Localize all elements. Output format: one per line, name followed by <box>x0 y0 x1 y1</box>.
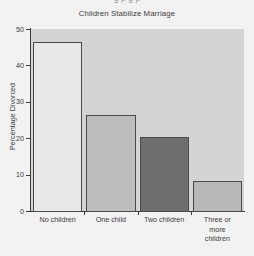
y-axis-line <box>30 28 31 212</box>
bar-2[interactable] <box>140 137 189 212</box>
y-tick-50 <box>26 29 31 30</box>
x-axis-label-line: children <box>191 234 244 244</box>
x-axis-label-2: Two children <box>138 215 191 225</box>
y-tick-label-10: 10 <box>2 171 24 178</box>
y-tick-label-0: 0 <box>2 208 24 215</box>
x-axis-label-line: Three or <box>191 215 244 225</box>
y-tick-label-50: 50 <box>2 26 24 33</box>
x-axis-label-3: Three ormorechildren <box>191 215 244 244</box>
y-tick-40 <box>26 65 31 66</box>
bar-3[interactable] <box>193 181 242 212</box>
bar-chart-figure: g p g p Children Stabilize Marriage 0102… <box>0 0 254 256</box>
y-tick-20 <box>26 138 31 139</box>
cropped-top-text: g p g p <box>0 0 254 4</box>
x-axis-label-line: more <box>191 225 244 235</box>
x-axis-label-line: No children <box>31 215 84 225</box>
x-axis-label-line: Two children <box>138 215 191 225</box>
x-axis-label-0: No children <box>31 215 84 225</box>
bar-1[interactable] <box>86 115 135 212</box>
y-axis-label: Percentage Divorced <box>8 62 17 172</box>
chart-title: Children Stabilize Marriage <box>0 9 254 18</box>
y-tick-30 <box>26 102 31 103</box>
y-tick-0 <box>26 211 31 212</box>
x-axis-label-line: One child <box>84 215 137 225</box>
x-axis-label-1: One child <box>84 215 137 225</box>
y-tick-10 <box>26 175 31 176</box>
bar-0[interactable] <box>33 42 82 212</box>
